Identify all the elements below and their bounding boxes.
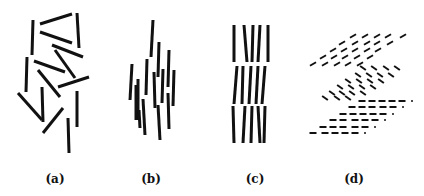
rod — [243, 106, 245, 143]
rod — [256, 66, 258, 104]
rod — [251, 106, 252, 143]
rod — [258, 25, 260, 62]
rod — [158, 105, 160, 140]
rod — [151, 20, 153, 57]
rod — [168, 93, 169, 129]
rod — [249, 66, 251, 104]
rod — [258, 106, 260, 143]
figure-background — [0, 0, 424, 196]
rod — [173, 70, 174, 106]
panel-label-a: (a) — [40, 172, 70, 186]
panel-label-b: (b) — [136, 172, 166, 186]
panel-label-d: (d) — [339, 172, 369, 186]
rod — [68, 118, 69, 153]
rod — [77, 13, 79, 48]
rod — [146, 59, 147, 95]
rod — [242, 66, 243, 104]
rod — [32, 20, 33, 55]
rod — [252, 25, 253, 62]
panel-label-c: (c) — [240, 172, 270, 186]
liquid-crystal-phases-figure — [0, 0, 424, 196]
rod — [42, 87, 43, 122]
rod — [162, 69, 163, 103]
rod — [26, 57, 27, 92]
rod — [168, 50, 169, 87]
rod — [158, 42, 159, 77]
rod — [154, 72, 155, 108]
rod — [130, 64, 132, 100]
rod — [143, 99, 145, 135]
rod — [264, 106, 265, 143]
rod — [233, 106, 234, 143]
rod — [139, 110, 140, 128]
